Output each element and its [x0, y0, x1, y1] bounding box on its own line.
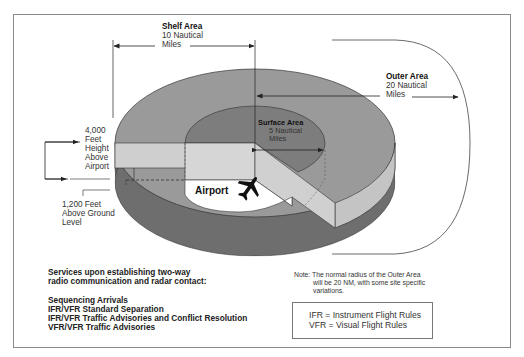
note-line-2: will be 20 NM, with some site specific: [294, 279, 425, 287]
outer-area-distance-1: 20 Nautical: [386, 81, 428, 90]
floor-label-line: Level: [62, 218, 115, 227]
surface-area-label: Surface Area 5 Nautical Miles: [258, 119, 303, 143]
floor-label: 1,200 Feet Above Ground Level: [62, 200, 115, 227]
shelf-area-title: Shelf Area: [162, 22, 203, 31]
height-label-line: Above: [85, 153, 109, 162]
height-label-line: Feet: [85, 135, 109, 144]
legend-vfr: VFR = Visual Flight Rules: [309, 320, 432, 330]
note-line-3: variations.: [294, 287, 425, 295]
outer-area-title: Outer Area: [386, 72, 428, 81]
shelf-area-distance-1: 10 Nautical: [162, 31, 203, 40]
floor-label-line: 1,200 Feet: [62, 200, 115, 209]
services-heading-2: radio communication and radar contact:: [48, 277, 247, 286]
floor-label-line: Above Ground: [62, 209, 115, 218]
service-item: VFR/VFR Traffic Advisories: [48, 323, 247, 332]
height-label-line: Airport: [85, 162, 109, 171]
outer-area-distance-2: Miles: [386, 90, 428, 99]
height-label-line: Height: [85, 144, 109, 153]
abbreviation-legend: IFR = Instrument Flight Rules VFR = Visu…: [292, 302, 433, 339]
services-list: Services upon establishing two-way radio…: [48, 268, 247, 333]
height-label-line: 4,000: [85, 126, 109, 135]
note-line-1: Note: The normal radius of the Outer Are…: [294, 271, 425, 279]
height-label: 4,000 Feet Height Above Airport: [85, 126, 109, 171]
outer-area-note: Note: The normal radius of the Outer Are…: [294, 271, 425, 296]
outer-area-label: Outer Area 20 Nautical Miles: [386, 72, 428, 99]
shelf-area-label: Shelf Area 10 Nautical Miles: [162, 22, 203, 49]
surface-area-distance-2: Miles: [258, 135, 303, 143]
shelf-area-distance-2: Miles: [162, 40, 203, 49]
airport-label: Airport: [195, 186, 228, 195]
legend-ifr: IFR = Instrument Flight Rules: [309, 310, 432, 320]
